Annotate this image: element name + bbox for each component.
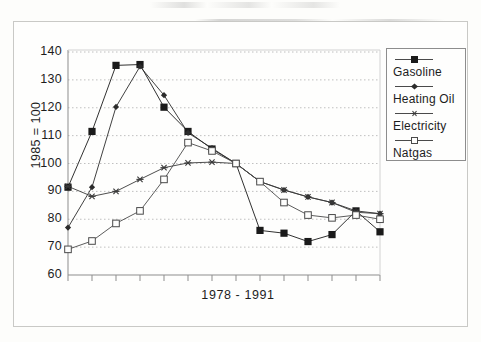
legend-item: Gasoline bbox=[393, 54, 465, 79]
series-line-electricity bbox=[68, 162, 380, 214]
legend-item: Natgas bbox=[393, 135, 465, 160]
chart-legend: Gasoline Heating Oil Electricity bbox=[386, 48, 466, 161]
legend-label-heating-oil: Heating Oil bbox=[393, 92, 465, 106]
legend-marker-natgas bbox=[393, 135, 437, 146]
legend-marker-electricity bbox=[393, 108, 437, 119]
legend-label-electricity: Electricity bbox=[393, 119, 465, 133]
legend-marker-heating-oil bbox=[393, 81, 437, 92]
legend-item: Electricity bbox=[393, 108, 465, 133]
series-markers-electricity bbox=[64, 159, 383, 216]
legend-label-natgas: Natgas bbox=[393, 146, 465, 160]
series-markers-heating-oil bbox=[65, 63, 383, 230]
chart-figure: 1985 = 100 1978 - 1991 60708090100110120… bbox=[0, 0, 481, 342]
legend-item: Heating Oil bbox=[393, 81, 465, 106]
legend-marker-gasoline bbox=[393, 54, 437, 65]
legend-label-gasoline: Gasoline bbox=[393, 65, 465, 79]
